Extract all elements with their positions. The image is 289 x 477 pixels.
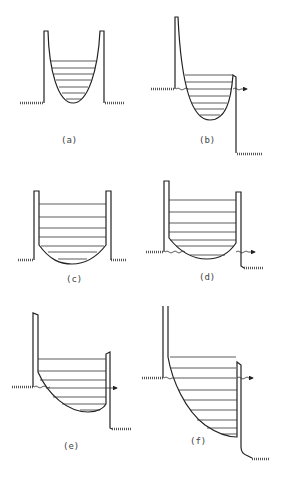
panel-label-f: (f) <box>190 436 206 446</box>
energy-levels <box>170 357 237 434</box>
tunneling-wave-icon <box>165 251 185 253</box>
tunneling-wave-icon <box>176 88 188 90</box>
energy-levels <box>169 200 236 255</box>
energy-levels <box>38 359 106 410</box>
tunneling-wave-icon <box>34 386 50 388</box>
panel-a: (a) <box>20 31 124 145</box>
panel-label-b: (b) <box>199 135 215 145</box>
energy-levels <box>39 204 106 259</box>
biased-parabolic-well <box>175 17 236 153</box>
panel-b: (b) <box>151 17 262 154</box>
rounded-square-well <box>34 191 111 264</box>
panel-e: (e) <box>12 313 132 451</box>
panel-c: (c) <box>18 191 126 284</box>
panel-label-e: (e) <box>63 441 79 451</box>
strongly-tilted-well <box>163 306 252 458</box>
panel-d: (d) <box>146 181 263 282</box>
panel-label-a: (a) <box>61 135 77 145</box>
parabolic-well <box>44 31 104 103</box>
tunneling-arrow-icon <box>236 251 255 253</box>
tunneling-arrow-icon <box>237 377 253 379</box>
panel-f: (f) <box>142 306 270 459</box>
tunneling-wave-icon <box>164 377 172 379</box>
energy-diagram-figure: (a) (b) (c) <box>0 0 289 477</box>
panel-label-c: (c) <box>66 274 82 284</box>
panel-label-d: (d) <box>199 272 215 282</box>
tunneling-arrow-icon <box>233 88 247 90</box>
energy-levels <box>51 61 96 99</box>
